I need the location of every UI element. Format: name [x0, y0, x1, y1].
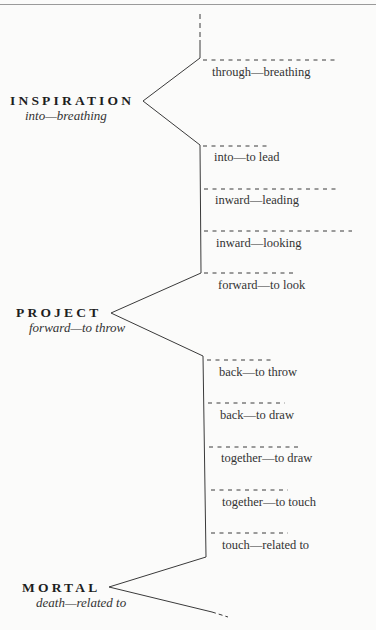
- branch-label: together—to touch: [222, 495, 316, 510]
- word-mortal: MORTAL: [22, 580, 100, 596]
- gloss-inspiration: into—breathing: [25, 108, 107, 124]
- word-project: PROJECT: [16, 305, 101, 321]
- branch-label: inward—leading: [215, 193, 299, 208]
- gloss-mortal: death—related to: [36, 595, 126, 611]
- gloss-project: forward—to throw: [29, 320, 125, 336]
- branch-label: back—to draw: [220, 408, 294, 423]
- branch-label: back—to throw: [219, 365, 297, 380]
- branch-label: touch—related to: [222, 538, 309, 553]
- branch-label: through—breathing: [212, 65, 311, 80]
- branch-label: inward—looking: [216, 236, 301, 251]
- word-inspiration: INSPIRATION: [10, 93, 134, 109]
- branch-label: together—to draw: [221, 451, 312, 466]
- branch-label: forward—to look: [218, 278, 305, 293]
- branch-label: into—to lead: [214, 150, 280, 165]
